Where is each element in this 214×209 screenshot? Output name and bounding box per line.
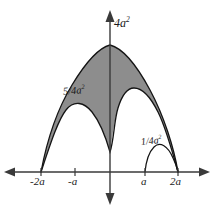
label-small-exponent: 2 <box>158 133 162 140</box>
x-axis-left-arrow-icon <box>4 168 15 177</box>
label-inner-base: 5/4a <box>63 84 82 96</box>
label-apex-exponent: 2 <box>126 15 130 24</box>
label-apex-value: 4a2 <box>114 17 130 29</box>
label-inner-exponent: 2 <box>81 83 85 90</box>
tick-label-a: a <box>141 176 147 187</box>
label-apex-base: 4a <box>114 16 126 30</box>
math-figure: 4a2 5/4a2 1/4a2 -2a -a a 2a <box>0 0 214 209</box>
label-inner-peak-value: 5/4a2 <box>63 85 86 97</box>
label-small-base: 1/4a <box>140 134 159 147</box>
tick-label-2a: 2a <box>170 176 181 187</box>
tick-label-minus-2a: -2a <box>30 176 45 187</box>
tick-label-minus-a: -a <box>68 176 77 187</box>
x-axis-right-arrow-icon <box>199 168 210 177</box>
y-axis-down-arrow-icon <box>106 193 115 205</box>
